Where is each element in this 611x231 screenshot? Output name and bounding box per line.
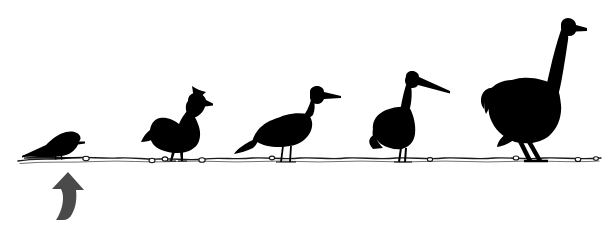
pebble bbox=[162, 157, 168, 161]
bird-progression-illustration bbox=[0, 0, 611, 231]
pebble bbox=[594, 157, 599, 161]
pebble bbox=[427, 158, 432, 162]
pebble bbox=[513, 156, 519, 160]
pebble bbox=[83, 156, 89, 160]
pebble bbox=[149, 158, 155, 162]
pebble bbox=[269, 156, 274, 160]
pebble bbox=[199, 158, 205, 163]
illustration-canvas: Bird Size Progression Silhouettes Small … bbox=[0, 0, 611, 231]
pebble bbox=[575, 158, 581, 162]
